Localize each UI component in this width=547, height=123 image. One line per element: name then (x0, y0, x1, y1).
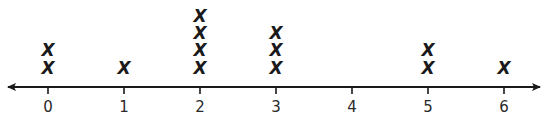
axis-tick-label: 6 (499, 98, 509, 116)
axis-tick-label: 0 (43, 98, 53, 116)
x-mark: X (192, 23, 207, 43)
x-mark: X (116, 58, 131, 78)
x-mark: X (40, 58, 55, 78)
x-marks: XXXXXXXXXXXXX (40, 6, 511, 78)
axis-tick-labels: 0123456 (43, 98, 509, 116)
x-mark: X (268, 58, 283, 78)
axis-tick-label: 5 (423, 98, 433, 116)
x-mark: X (192, 40, 207, 60)
x-mark: X (192, 58, 207, 78)
axis-ticks (48, 87, 504, 94)
x-mark: X (192, 6, 207, 26)
x-mark: X (420, 40, 435, 60)
x-mark: X (496, 58, 511, 78)
x-mark: X (420, 58, 435, 78)
x-mark: X (268, 23, 283, 43)
axis-tick-label: 2 (195, 98, 205, 116)
line-plot: 0123456 XXXXXXXXXXXXX (0, 0, 547, 123)
x-mark: X (40, 40, 55, 60)
axis-tick-label: 4 (347, 98, 357, 116)
axis-tick-label: 1 (119, 98, 129, 116)
axis-tick-label: 3 (271, 98, 281, 116)
x-mark: X (268, 40, 283, 60)
